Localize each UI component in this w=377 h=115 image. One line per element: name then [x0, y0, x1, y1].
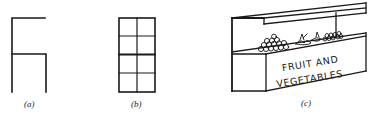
sign-text: FRUIT AND VEGETABLES [273, 53, 344, 89]
produce-pile [258, 32, 343, 52]
panel-a-label: (a) [24, 99, 35, 109]
panel-a-frame [12, 18, 46, 92]
panel-b-grid [119, 18, 155, 92]
panel-c-label: (c) [301, 98, 311, 108]
figure-canvas: FRUIT AND VEGETABLES [0, 0, 377, 115]
panel-b-label: (b) [131, 99, 142, 109]
